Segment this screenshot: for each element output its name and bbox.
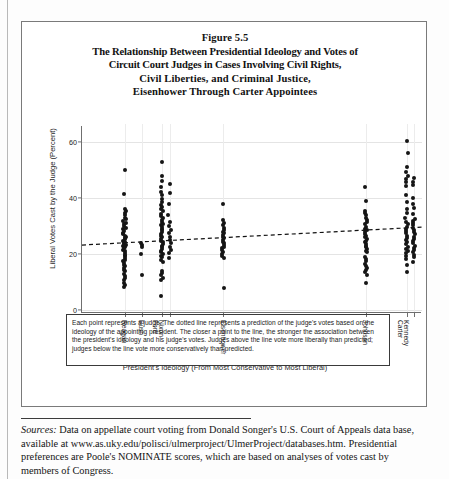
figure-title-line-2: The Relationship Between Presidential Id… (36, 45, 414, 59)
trend-line (82, 128, 422, 314)
scatter-point (404, 184, 408, 188)
figure-box: Figure 5.5 The Relationship Between Pres… (21, 21, 427, 407)
x-tick-label-line: Kennedy (403, 320, 409, 346)
y-tick-mark (78, 253, 82, 254)
y-gridline (82, 310, 422, 311)
scatter-point (221, 202, 225, 206)
y-tick-label: 40 (69, 194, 77, 203)
scatter-point (168, 220, 172, 224)
x-tick-label: KennedyCarter (396, 320, 409, 346)
scatter-point (122, 192, 126, 196)
x-tick-mark (414, 313, 415, 317)
sources-note: Sources: Data on appellate court voting … (21, 423, 427, 477)
y-tick-label: 20 (69, 250, 77, 259)
scatter-point (411, 196, 415, 200)
scatter-point (412, 206, 416, 210)
plot-canvas: 0204060ReaganBushNixonFordEisenhowerJohn… (82, 128, 414, 310)
scatter-point (404, 193, 408, 197)
scatter-point (167, 256, 171, 260)
y-axis-title: Liberal Votes Cast by the Judge (Percent… (48, 109, 57, 289)
x-gridline (170, 124, 171, 312)
scatter-point (405, 139, 409, 143)
x-tick-mark (407, 313, 408, 317)
scatter-point (363, 185, 367, 189)
scatter-point (222, 286, 226, 290)
sources-label: Sources: (21, 424, 57, 435)
sources-text: Data on appellate court voting from Dona… (21, 424, 414, 476)
sources-divider (21, 418, 251, 419)
y-gridline (82, 198, 422, 199)
y-gridline (82, 142, 422, 143)
scatter-point (411, 212, 415, 216)
scatter-point (160, 179, 164, 183)
y-gridline (82, 254, 422, 255)
scatter-point (160, 174, 164, 178)
scatter-point (123, 168, 127, 172)
y-tick-mark (78, 141, 82, 142)
x-tick-label-line: Carter (396, 320, 402, 346)
scatter-point (405, 211, 409, 215)
scatter-point (140, 245, 144, 249)
page-canvas: Figure 5.5 The Relationship Between Pres… (0, 0, 449, 479)
scatter-point (364, 281, 368, 285)
scatter-point (411, 183, 415, 187)
scatter-point (405, 270, 409, 274)
scatter-point (411, 202, 415, 206)
figure-title: Figure 5.5 The Relationship Between Pres… (36, 31, 414, 99)
scatter-point (404, 257, 408, 261)
page-margin-rule (7, 0, 8, 479)
figure-title-line-5: Eisenhower Through Carter Appointees (36, 85, 414, 99)
y-tick-mark (78, 197, 82, 198)
figure-title-line-1: Figure 5.5 (36, 31, 414, 45)
scatter-point (168, 182, 172, 186)
scatter-point (406, 151, 410, 155)
scatter-point (404, 170, 408, 174)
scatter-point (160, 160, 164, 164)
scatter-point (365, 273, 369, 277)
y-tick-label: 60 (69, 138, 77, 147)
y-tick-mark (78, 309, 82, 310)
figure-title-line-3: Circuit Court Judges in Cases Involving … (36, 58, 414, 72)
figure-note: Each point represents a judge. The dotte… (66, 314, 390, 366)
figure-title-line-4: Civil Liberties, and Criminal Justice, (36, 72, 414, 86)
x-gridline (142, 124, 143, 312)
scatter-point (411, 260, 415, 264)
